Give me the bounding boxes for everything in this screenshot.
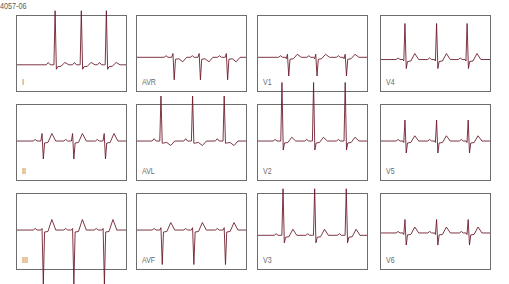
lead-label: V4 bbox=[386, 77, 395, 87]
ecg-waveform bbox=[381, 105, 490, 180]
ecg-waveform bbox=[17, 105, 126, 180]
lead-label: AVF bbox=[142, 255, 155, 265]
lead-label: V1 bbox=[263, 77, 272, 87]
lead-label: III bbox=[22, 255, 28, 265]
ecg-lead-panel-v5: V5 bbox=[380, 104, 491, 181]
ecg-waveform bbox=[17, 16, 126, 91]
lead-label: I bbox=[22, 77, 24, 87]
ecg-lead-panel-avf: AVF bbox=[136, 193, 247, 270]
ecg-lead-panel-v1: V1 bbox=[257, 15, 368, 92]
ecg-waveform bbox=[258, 194, 367, 269]
lead-label: V2 bbox=[263, 166, 272, 176]
ecg-waveform bbox=[258, 16, 367, 91]
ecg-lead-panel-iii: III bbox=[16, 193, 127, 270]
figure-id-label: 4057-06 bbox=[0, 1, 26, 11]
ecg-lead-panel-avr: AVR bbox=[136, 15, 247, 92]
lead-label: AVR bbox=[142, 77, 156, 87]
ecg-lead-panel-v3: V3 bbox=[257, 193, 368, 270]
ecg-lead-panel-v4: V4 bbox=[380, 15, 491, 92]
ecg-waveform bbox=[381, 194, 490, 269]
lead-label: V3 bbox=[263, 255, 272, 265]
ecg-waveform bbox=[258, 105, 367, 180]
lead-label: V5 bbox=[386, 166, 395, 176]
ecg-lead-panel-v6: V6 bbox=[380, 193, 491, 270]
ecg-waveform bbox=[381, 16, 490, 91]
ecg-lead-panel-v2: V2 bbox=[257, 104, 368, 181]
lead-label: II bbox=[22, 166, 26, 176]
ecg-lead-panel-i: I bbox=[16, 15, 127, 92]
lead-label: AVL bbox=[142, 166, 155, 176]
lead-label: V6 bbox=[386, 255, 395, 265]
ecg-waveform bbox=[17, 194, 126, 269]
ecg-lead-panel-ii: II bbox=[16, 104, 127, 181]
ecg-lead-panel-avl: AVL bbox=[136, 104, 247, 181]
